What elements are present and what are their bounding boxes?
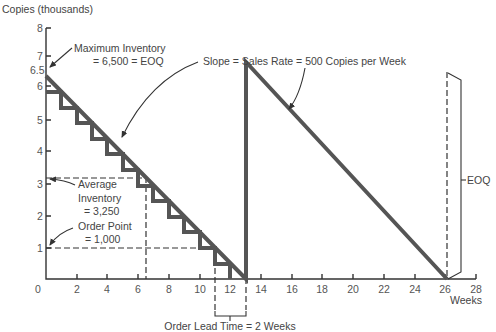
avg-inventory-label-3: = 3,250 (84, 205, 119, 217)
x-tick-26: 26 (439, 283, 451, 295)
y-tick-6-5: 6.5 (30, 64, 45, 76)
order-point-label-1: Order Point (78, 220, 132, 232)
eoq-inventory-chart: Copies (thousands) Weeks 8 7 6.5 6 5 4 3… (0, 0, 496, 332)
y-tick-labels: 8 7 6.5 6 5 4 3 2 1 (30, 22, 45, 254)
lead-time-label: Order Lead Time = 2 Weeks (164, 320, 295, 332)
y-tick-6: 6 (37, 80, 43, 92)
eoq-label: EOQ (467, 174, 490, 186)
y-tick-2: 2 (37, 210, 43, 222)
slope-arrow-right (289, 68, 305, 109)
x-tick-2: 2 (74, 283, 80, 295)
y-tick-marks (46, 28, 51, 248)
x-tick-labels: 0 2 4 6 8 10 12 14 16 18 20 22 24 26 28 (35, 283, 482, 295)
x-tick-12: 12 (224, 283, 236, 295)
y-axis-title: Copies (thousands) (2, 3, 93, 15)
max-inventory-arrow (50, 48, 72, 67)
x-tick-6: 6 (135, 283, 141, 295)
inventory-sawtooth-line (46, 62, 447, 279)
slope-label: Slope = Sales Rate = 500 Copies per Week (203, 55, 407, 67)
order-point-arrow (50, 228, 73, 245)
x-tick-22: 22 (378, 283, 390, 295)
max-inventory-label-1: Maximum Inventory (74, 42, 166, 54)
max-inventory-label-2: = 6,500 = EOQ (93, 55, 164, 67)
x-tick-14: 14 (255, 283, 267, 295)
x-tick-16: 16 (286, 283, 298, 295)
x-tick-10: 10 (194, 283, 206, 295)
x-tick-18: 18 (316, 283, 328, 295)
x-tick-28: 28 (470, 283, 482, 295)
eoq-bracket (448, 73, 461, 279)
avg-inventory-arrow (50, 179, 75, 185)
y-tick-3: 3 (37, 178, 43, 190)
y-tick-5: 5 (37, 114, 43, 126)
weekly-step-line (46, 92, 230, 279)
y-tick-4: 4 (37, 145, 43, 157)
order-point-label-2: = 1,000 (85, 233, 120, 245)
slope-arrow-left (122, 62, 198, 137)
x-tick-24: 24 (409, 283, 421, 295)
y-tick-7: 7 (37, 50, 43, 62)
x-tick-0: 0 (35, 283, 41, 295)
x-axis-title: Weeks (450, 294, 482, 306)
avg-inventory-label-1: Average (78, 178, 117, 190)
y-tick-1: 1 (37, 242, 43, 254)
y-tick-8: 8 (37, 22, 43, 34)
x-tick-8: 8 (166, 283, 172, 295)
x-tick-marks (77, 274, 476, 279)
x-tick-4: 4 (104, 283, 110, 295)
x-tick-20: 20 (347, 283, 359, 295)
avg-inventory-label-2: Inventory (78, 192, 122, 204)
